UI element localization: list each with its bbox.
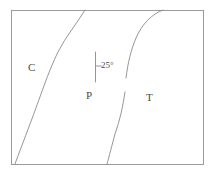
curve-c-p-boundary — [15, 10, 85, 164]
region-label-t: T — [146, 92, 153, 103]
curve-p-t-boundary-lower — [107, 92, 125, 164]
angle-annotation-label: 25° — [101, 61, 114, 70]
diagram-border — [12, 11, 204, 165]
phase-diagram-figure: C P T 25° — [0, 0, 215, 179]
region-label-p: P — [86, 90, 92, 101]
curve-p-t-boundary-upper — [126, 10, 163, 78]
diagram-canvas — [0, 0, 215, 179]
region-label-c: C — [28, 62, 35, 73]
